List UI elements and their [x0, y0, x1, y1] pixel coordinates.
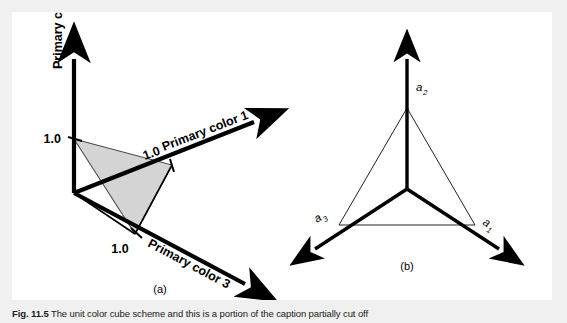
- figure-caption: Fig. 11.5 The unit color cube scheme and…: [12, 308, 552, 323]
- axis-2-label: Primary color 2: [51, 12, 65, 69]
- figure-card: 1.0 1.0 1.0 Primary color 2 Primary colo…: [12, 12, 552, 300]
- axis-2-tick-label: 1.0: [44, 132, 61, 146]
- outline-edge-a2-a1: [407, 108, 475, 225]
- vector-a2-label-base: a: [416, 81, 422, 93]
- panel-b-group: a 2 a 1 a 3 (b): [312, 59, 499, 272]
- panel-a-group: 1.0 1.0 1.0 Primary color 2 Primary colo…: [44, 12, 254, 295]
- axis-3-tick-label: 1.0: [111, 242, 128, 256]
- figure-caption-body: The unit color cube scheme and this is a…: [51, 308, 368, 319]
- vector-a2-label-sub: 2: [422, 88, 428, 97]
- axis-3-line: [74, 193, 245, 284]
- vector-a3-line: [315, 189, 407, 249]
- vector-a3-label-sub: 3: [321, 214, 330, 224]
- figure-caption-text: Fig. 11.5 The unit color cube scheme and…: [12, 308, 552, 319]
- outline-edge-a2-a3: [339, 108, 407, 225]
- panel-a-sublabel: (a): [153, 283, 166, 295]
- figure-caption-number: Fig. 11.5: [12, 308, 49, 319]
- vector-a2-label: a 2: [416, 81, 428, 97]
- vector-a3-label: a 3: [312, 208, 331, 228]
- vector-a1-label: a 1: [479, 216, 497, 236]
- panel-b-sublabel: (b): [400, 260, 413, 272]
- figure-container: 1.0 1.0 1.0 Primary color 2 Primary colo…: [0, 0, 567, 323]
- figure-illustration: 1.0 1.0 1.0 Primary color 2 Primary colo…: [12, 12, 552, 300]
